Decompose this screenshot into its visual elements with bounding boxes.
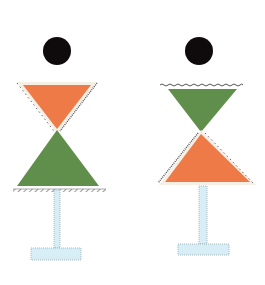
hourglass-figures-diagram xyxy=(0,0,265,285)
right-head xyxy=(185,37,213,65)
left-orange-triangle xyxy=(23,85,91,129)
right-foot xyxy=(178,244,229,255)
right-post xyxy=(199,186,207,244)
left-head xyxy=(43,37,71,65)
right-ground-line xyxy=(160,84,243,86)
left-green-triangle xyxy=(17,130,99,186)
right-green-triangle xyxy=(168,89,237,132)
left-figure xyxy=(13,37,106,260)
left-post xyxy=(54,190,60,248)
right-figure xyxy=(158,37,256,255)
left-foot xyxy=(31,248,81,260)
